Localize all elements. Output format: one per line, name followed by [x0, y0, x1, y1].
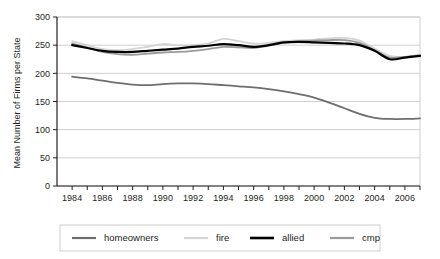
line-chart: 050100150200250300 198419861988199019921… [0, 0, 440, 259]
y-tick-label-50: 50 [40, 153, 50, 163]
x-tick-label-1998: 1998 [274, 193, 294, 203]
legend-label-homeowners: homeowners [104, 232, 159, 243]
x-tick-label-2000: 2000 [304, 193, 324, 203]
chart-legend: homeownersfirealliedcmp [60, 225, 380, 251]
y-tick-label-200: 200 [35, 69, 50, 79]
x-tick-label-1984: 1984 [62, 193, 82, 203]
legend-label-allied: allied [282, 232, 304, 243]
x-tick-label-2002: 2002 [334, 193, 354, 203]
x-tick-label-1990: 1990 [153, 193, 173, 203]
y-axis-title: Mean Number of Firms per State [12, 37, 22, 168]
legend-label-fire: fire [216, 232, 229, 243]
y-tick-label-150: 150 [35, 97, 50, 107]
x-tick-label-1986: 1986 [92, 193, 112, 203]
x-tick-label-1988: 1988 [123, 193, 143, 203]
x-tick-label-1992: 1992 [183, 193, 203, 203]
y-tick-label-0: 0 [45, 181, 50, 191]
y-tick-label-100: 100 [35, 125, 50, 135]
x-tick-label-1996: 1996 [244, 193, 264, 203]
x-tick-label-2006: 2006 [395, 193, 415, 203]
x-tick-label-2004: 2004 [365, 193, 385, 203]
chart-figure: 050100150200250300 198419861988199019921… [0, 0, 440, 259]
y-tick-label-250: 250 [35, 40, 50, 50]
legend-label-cmp: cmp [362, 232, 380, 243]
y-tick-label-300: 300 [35, 12, 50, 22]
x-tick-label-1994: 1994 [213, 193, 233, 203]
